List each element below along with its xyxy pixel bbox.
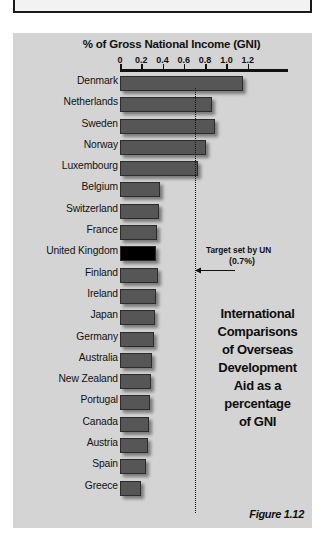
bar: [120, 182, 160, 197]
un-target-reference-line: [195, 88, 196, 513]
bar-row: Spain: [13, 457, 312, 478]
category-label: Denmark: [77, 75, 118, 86]
bar: [120, 140, 206, 155]
bar: [120, 481, 141, 496]
bar-rows: DenmarkNetherlandsSwedenNorwayLuxembourg…: [13, 74, 312, 500]
x-tick-mark: [120, 64, 122, 70]
un-target-annotation: Target set by UN (0.7%): [206, 245, 312, 266]
bar: [120, 97, 212, 112]
figure-caption-line: Aid as a: [203, 377, 312, 395]
category-label: Greece: [85, 480, 118, 491]
left-arrow-icon: [195, 267, 235, 274]
bar: [120, 204, 159, 219]
figure-caption-line: of GNI: [203, 413, 312, 431]
bar: [120, 310, 155, 325]
bar: [120, 438, 148, 453]
category-label: Netherlands: [64, 96, 118, 107]
figure-caption-line: International: [203, 305, 312, 323]
figure-caption-line: of Overseas: [203, 341, 312, 359]
bar-row: Greece: [13, 479, 312, 500]
figure-caption-line: Development: [203, 359, 312, 377]
bar: [120, 119, 215, 134]
x-tick-mark: [248, 64, 250, 70]
figure-caption-line: Comparisons: [203, 323, 312, 341]
bar: [120, 225, 157, 240]
category-label: France: [87, 224, 118, 235]
bar: [120, 268, 158, 283]
category-label: Austria: [87, 437, 118, 448]
bar: [120, 417, 149, 432]
category-label: Japan: [90, 309, 118, 320]
figure-label: Figure 1.12: [249, 508, 304, 520]
bar: [120, 76, 243, 91]
bar-row: Netherlands: [13, 95, 312, 116]
bar-row: France: [13, 223, 312, 244]
bar: [120, 246, 156, 261]
category-label: Portugal: [80, 394, 118, 405]
category-label: New Zealand: [58, 373, 118, 384]
category-label: Switzerland: [66, 203, 118, 214]
bar: [120, 459, 146, 474]
bar-row: Switzerland: [13, 202, 312, 223]
bar: [120, 289, 156, 304]
category-label: United Kingdom: [46, 245, 118, 256]
bar-row: Austria: [13, 436, 312, 457]
chart-title: % of Gross National Income (GNI): [13, 38, 312, 50]
bar-row: Luxembourg: [13, 159, 312, 180]
bar-row: Sweden: [13, 117, 312, 138]
x-tick-mark: [163, 64, 165, 70]
x-tick-mark: [184, 64, 186, 70]
x-tick-mark: [226, 64, 228, 70]
category-label: Norway: [84, 139, 118, 150]
bar-row: Norway: [13, 138, 312, 159]
page-top-box: [13, 0, 312, 13]
x-axis-line: [120, 69, 288, 72]
category-label: Canada: [83, 416, 118, 427]
x-tick-mark: [205, 64, 207, 70]
x-tick-mark: [141, 64, 143, 70]
figure-caption-line: percentage: [203, 395, 312, 413]
bar: [120, 161, 198, 176]
bar: [120, 395, 150, 410]
category-label: Belgium: [81, 181, 118, 192]
bar: [120, 332, 154, 347]
category-label: Spain: [92, 458, 118, 469]
category-label: Germany: [76, 331, 118, 342]
un-target-annotation-line2: (0.7%): [206, 256, 278, 266]
category-label: Finland: [85, 267, 118, 278]
bar-row: Finland: [13, 266, 312, 287]
figure-caption: InternationalComparisonsof OverseasDevel…: [203, 305, 312, 431]
category-label: Ireland: [87, 288, 118, 299]
bar: [120, 353, 152, 368]
category-label: Luxembourg: [62, 160, 118, 171]
category-label: Sweden: [81, 118, 118, 129]
bar: [120, 374, 151, 389]
bar-row: Belgium: [13, 180, 312, 201]
bar-row: Denmark: [13, 74, 312, 95]
category-label: Australia: [79, 352, 118, 363]
chart-panel: % of Gross National Income (GNI) 00.20.4…: [13, 33, 312, 528]
un-target-annotation-line1: Target set by UN: [206, 245, 312, 255]
